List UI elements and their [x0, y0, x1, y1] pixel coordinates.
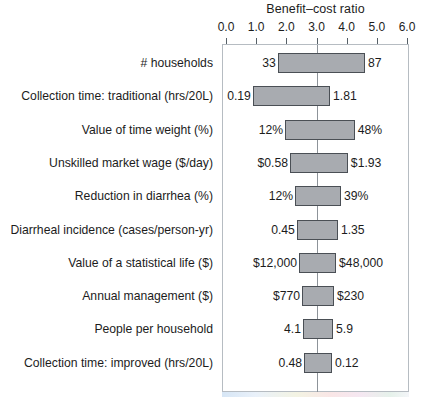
tornado-bar-5 — [297, 220, 338, 240]
row-label-2: Value of time weight (%) — [82, 123, 213, 137]
tornado-bar-3 — [290, 153, 348, 173]
tornado-row: Annual management ($)$770$230 — [0, 285, 424, 307]
tornado-row: Collection time: improved (hrs/20L)0.480… — [0, 352, 424, 374]
bottom-color-fringe — [222, 392, 409, 397]
row-label-5: Diarrheal incidence (cases/person-yr) — [10, 223, 213, 237]
bar-high-value-4: 39% — [344, 189, 368, 203]
row-label-8: People per household — [94, 322, 213, 336]
bar-low-value-1: 0.19 — [227, 89, 251, 103]
tornado-row: Diarrheal incidence (cases/person-yr)0.4… — [0, 219, 424, 241]
tornado-row: Value of time weight (%)12%48% — [0, 119, 424, 141]
bar-high-value-3: $1.93 — [351, 156, 382, 170]
tornado-bar-6 — [299, 253, 336, 273]
x-tick-label-3.0: 3.0 — [308, 20, 325, 34]
tornado-bar-4 — [295, 186, 341, 206]
bar-low-value-3: $0.58 — [257, 156, 288, 170]
row-label-7: Annual management ($) — [82, 289, 213, 303]
tornado-bar-7 — [302, 286, 334, 306]
row-label-1: Collection time: traditional (hrs/20L) — [21, 89, 213, 103]
x-tick-label-1.0: 1.0 — [248, 20, 265, 34]
tornado-row: Unskilled market wage ($/day)$0.58$1.93 — [0, 152, 424, 174]
row-label-0: # households — [140, 56, 213, 70]
x-tick-label-4.0: 4.0 — [338, 20, 355, 34]
bar-low-value-5: 0.45 — [271, 223, 295, 237]
bar-low-value-4: 12% — [269, 189, 293, 203]
bar-low-value-7: $770 — [273, 289, 300, 303]
row-label-4: Reduction in diarrhea (%) — [75, 189, 213, 203]
x-axis-tick-labels: 0.01.02.03.04.05.06.0 — [0, 20, 424, 35]
bar-high-value-5: 1.35 — [341, 223, 365, 237]
tornado-row: # households3387 — [0, 52, 424, 74]
bar-high-value-6: $48,000 — [339, 256, 383, 270]
x-tick-label-5.0: 5.0 — [368, 20, 385, 34]
tornado-row: Reduction in diarrhea (%)12%39% — [0, 185, 424, 207]
bar-high-value-8: 5.9 — [336, 322, 353, 336]
tornado-row: Collection time: traditional (hrs/20L)0.… — [0, 85, 424, 107]
tornado-bar-9 — [304, 353, 332, 373]
tornado-bar-0 — [278, 53, 365, 73]
bar-low-value-6: $12,000 — [253, 256, 297, 270]
tornado-bar-8 — [303, 319, 333, 339]
bar-low-value-2: 12% — [259, 123, 283, 137]
bar-high-value-0: 87 — [368, 56, 382, 70]
row-label-3: Unskilled market wage ($/day) — [49, 156, 213, 170]
x-tick-label-6.0: 6.0 — [399, 20, 416, 34]
x-tick-label-2.0: 2.0 — [278, 20, 295, 34]
bar-high-value-2: 48% — [358, 123, 382, 137]
x-tick-label-0.0: 0.0 — [218, 20, 235, 34]
row-label-6: Value of a statistical life ($) — [68, 256, 213, 270]
tornado-row: People per household4.15.9 — [0, 318, 424, 340]
bar-low-value-9: 0.48 — [278, 356, 302, 370]
bar-low-value-8: 4.1 — [284, 322, 301, 336]
tornado-bar-2 — [285, 120, 355, 140]
bar-high-value-1: 1.81 — [333, 89, 357, 103]
bar-high-value-9: 0.12 — [335, 356, 359, 370]
tornado-bar-1 — [253, 86, 330, 106]
tornado-row: Value of a statistical life ($)$12,000$4… — [0, 252, 424, 274]
bar-low-value-0: 33 — [262, 56, 276, 70]
bar-high-value-7: $230 — [337, 289, 364, 303]
tornado-diagram-figure: Benefit–cost ratio 0.01.02.03.04.05.06.0… — [0, 0, 424, 403]
row-label-9: Collection time: improved (hrs/20L) — [24, 356, 213, 370]
chart-title: Benefit–cost ratio — [222, 2, 409, 16]
